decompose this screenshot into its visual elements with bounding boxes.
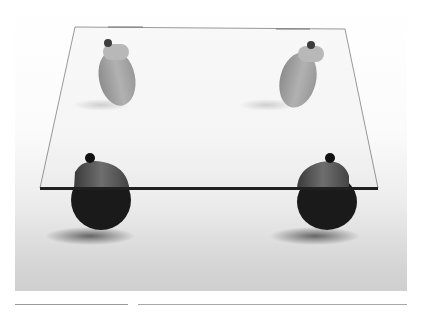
divider-line-right: [138, 304, 407, 305]
glass-table-illustration: [15, 0, 407, 291]
divider-line-left: [15, 304, 128, 305]
product-photo: [15, 0, 407, 291]
